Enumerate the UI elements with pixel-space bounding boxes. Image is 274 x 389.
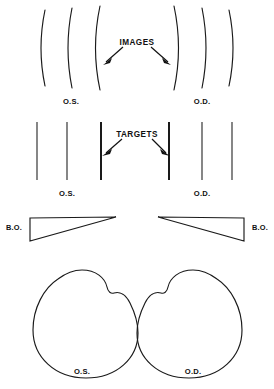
targets-row-label-os: O.S. — [59, 190, 75, 198]
images-arrow-left — [103, 47, 123, 65]
targets-arrow-right-shaft — [152, 139, 166, 153]
targets-arrow-left — [102, 139, 122, 156]
targets-arrow-right — [152, 139, 170, 156]
targets-arrow-left-head — [102, 149, 112, 156]
prism-right-base-out — [158, 217, 244, 241]
images-row-label-os: O.S. — [63, 98, 79, 106]
prism-left-base-out — [30, 217, 116, 241]
image-arc-left-2 — [68, 8, 72, 88]
images-label: IMAGES — [120, 39, 155, 47]
image-arc-right-1 — [174, 6, 179, 90]
prism-right-label-bo: B.O. — [252, 224, 268, 231]
images-row-label-od: O.D. — [194, 98, 210, 106]
prism-left-label-bo: B.O. — [6, 224, 22, 231]
image-arc-left-1 — [41, 10, 45, 86]
eye-label-os: O.S. — [74, 368, 90, 376]
image-arc-left-3 — [96, 6, 101, 90]
image-arc-right-3 — [229, 10, 233, 86]
images-arrow-left-shaft — [106, 47, 123, 62]
targets-label: TARGETS — [116, 131, 158, 139]
diagram-canvas — [0, 0, 274, 389]
images-arcs-group — [41, 6, 233, 90]
eye-globe-os — [33, 270, 138, 378]
prism-diagram-figure: IMAGES O.S. O.D. TARGETS O.S. O.D. B.O. … — [0, 0, 274, 389]
images-arrow-right-head — [162, 58, 171, 65]
image-arc-right-2 — [202, 8, 206, 88]
targets-row-label-od: O.D. — [194, 190, 210, 198]
images-arrow-right-shaft — [151, 47, 168, 62]
images-arrow-left-head — [103, 58, 112, 65]
eye-label-od: O.D. — [185, 368, 201, 376]
eye-globe-od — [137, 270, 242, 378]
images-arrow-right — [151, 47, 171, 65]
targets-arrow-left-shaft — [106, 139, 122, 153]
